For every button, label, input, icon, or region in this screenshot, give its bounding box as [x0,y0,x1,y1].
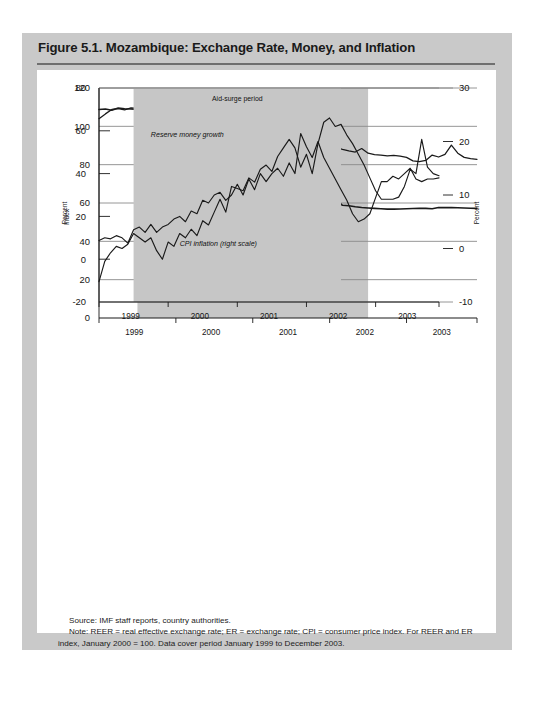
figure-panel: 02040608010012019992000200120022003Index… [37,70,496,633]
y-tick-label: 20 [76,211,86,222]
chart-bottom-svg: -20020406080-100102030199920002001200220… [37,70,496,350]
x-tick-label: 1999 [122,312,141,321]
y-tick-label-right: 30 [459,82,469,93]
figure-frame: Figure 5.1. Mozambique: Exchange Rate, M… [22,33,512,650]
y-tick-label: 60 [76,125,86,136]
figure-source: Source: IMF staff reports, country autho… [58,615,482,626]
chart-bottom-money-inflation: -20020406080-100102030199920002001200220… [37,70,496,350]
x-tick-label: 2000 [191,312,210,321]
y-tick-label-right: 20 [459,136,469,147]
figure-notes: Source: IMF staff reports, country autho… [58,615,482,649]
x-tick-label: 2002 [329,312,348,321]
y-tick-label-right: 10 [459,189,469,200]
y-tick-label: 80 [76,82,86,93]
y-axis-title-left: Percent [61,201,68,224]
x-tick-label: 2001 [260,312,279,321]
y-tick-label: 0 [81,254,86,265]
annotation-cpi-inflation: CPI inflation (right scale) [180,240,257,248]
y-axis-title-right: Percent [473,201,480,224]
annotation-reserve-money-growth: Reserve money growth [151,131,224,139]
aid-surge-shaded-region [134,88,341,302]
annotation-aid-surge-period: Aid-surge period [212,95,263,103]
figure-title: Figure 5.1. Mozambique: Exchange Rate, M… [38,40,415,55]
y-tick-label: -20 [72,296,86,307]
figure-note: Note: REER = real effective exchange rat… [58,626,482,649]
y-tick-label: 40 [76,168,86,179]
y-tick-label-right: -10 [459,296,473,307]
y-tick-label-right: 0 [459,243,464,254]
x-tick-label: 2003 [398,312,417,321]
title-rule [37,63,495,65]
